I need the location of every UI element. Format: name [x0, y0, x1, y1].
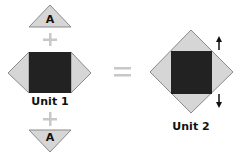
plus-icon-bottom — [43, 112, 57, 126]
triangle-letter-top: A — [44, 13, 56, 26]
unit1-label: Unit 1 — [20, 95, 80, 108]
plus-icon-top — [43, 33, 57, 46]
down-arrow-icon — [216, 94, 222, 108]
triangle-letter-bottom: A — [44, 131, 56, 144]
equals-icon — [114, 67, 131, 77]
unit2-label: Unit 2 — [161, 120, 221, 133]
unit2-dark-square — [171, 51, 212, 94]
unit1-shape — [8, 52, 91, 93]
unit2-shape — [150, 30, 233, 113]
unit1-dark-square — [29, 52, 71, 93]
up-arrow-icon — [216, 36, 222, 50]
